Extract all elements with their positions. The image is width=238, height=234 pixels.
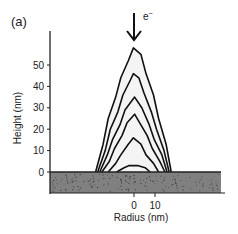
x-tick-label: 10: [149, 200, 161, 211]
y-axis-label: Height (nm): [12, 92, 23, 144]
y-tick-label: 0: [38, 167, 44, 178]
x-axis-label: Radius (nm): [114, 212, 168, 223]
beam-label: e−: [143, 10, 153, 22]
x-axis-ticks: 010: [131, 193, 161, 211]
y-axis-ticks: 01020304050: [33, 60, 50, 178]
y-tick-label: 10: [33, 145, 45, 156]
y-tick-label: 40: [33, 81, 45, 92]
y-tick-label: 50: [33, 60, 45, 71]
panel-label: (a): [11, 14, 27, 29]
beam-arrow: [127, 13, 141, 40]
y-tick-label: 30: [33, 102, 45, 113]
chart-figure: (a) e− 01020304050 010 Height (nm) Radiu…: [0, 0, 238, 234]
height-contours: [96, 48, 172, 172]
x-tick-label: 0: [131, 200, 137, 211]
y-tick-label: 20: [33, 124, 45, 135]
